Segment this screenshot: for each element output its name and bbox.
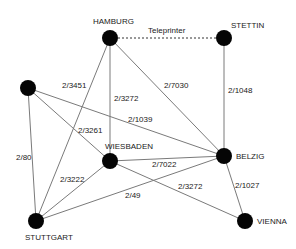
edge-label-hamburg-wiesbaden: 2/3272 — [114, 94, 139, 103]
edge-label-left-stuttgart: 2/80 — [16, 153, 32, 162]
edge-label-stuttgart-belzig: 2/49 — [125, 191, 141, 200]
edge-label-hamburg-stuttgart: 2/3451 — [62, 81, 87, 90]
edge-label-belzig-vienna: 2/1027 — [235, 181, 260, 190]
edge-label-wiesbaden-belzig: 2/7022 — [152, 160, 177, 169]
edge-label-hamburg-stettin: Teleprinter — [148, 26, 186, 35]
edge-label-hamburg-belzig: 2/7030 — [164, 81, 189, 90]
edge-label-left-belzig: 2/1039 — [128, 115, 153, 124]
node-label-stuttgart: STUTTGART — [25, 233, 73, 242]
node-vienna — [237, 213, 253, 229]
node-label-stettin: STETTIN — [231, 21, 265, 30]
edge-label-wiesbaden-vienna: 2/3272 — [178, 182, 203, 191]
node-stettin — [216, 30, 232, 46]
node-hamburg — [102, 30, 118, 46]
node-label-wiesbaden: WIESBADEN — [105, 142, 153, 151]
network-diagram: Teleprinter2/34512/32722/70302/10482/802… — [0, 0, 296, 249]
edge-label-wiesbaden-stuttgart: 2/3222 — [60, 175, 85, 184]
node-belzig — [216, 148, 232, 164]
node-wiesbaden — [102, 153, 118, 169]
node-left — [20, 80, 36, 96]
node-label-belzig: BELZIG — [236, 152, 264, 161]
node-label-vienna: VIENNA — [257, 217, 287, 226]
node-stuttgart — [28, 213, 44, 229]
edge-label-stettin-belzig: 2/1048 — [228, 86, 253, 95]
node-label-hamburg: HAMBURG — [93, 17, 134, 26]
edge-left-wiesbaden — [28, 88, 110, 161]
edge-label-left-wiesbaden: 2/3261 — [78, 126, 103, 135]
edge-wiesbaden-stuttgart — [36, 161, 110, 221]
